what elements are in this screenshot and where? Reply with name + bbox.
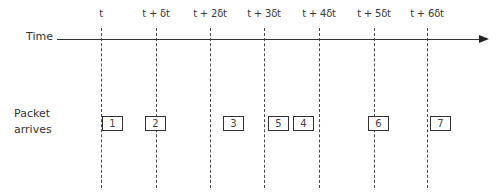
row-label-line1: Packet [14,106,52,122]
dashed-line-t3 [264,28,265,188]
arrow-head-icon [479,35,489,43]
packet-box-2: 2 [145,116,166,131]
tick-label-t0: t [99,8,103,19]
packet-arrival-timeline-diagram: t t + δt t + 2δt t + 3δt t + 4δt t + 5δt… [0,0,499,193]
tick-label-t2: t + 2δt [193,8,227,19]
packet-box-3: 3 [223,116,244,131]
time-axis-label: Time [26,30,53,43]
dashed-line-t6 [427,28,428,188]
packet-box-7: 7 [430,116,451,131]
dashed-line-t0 [101,28,102,188]
packet-arrives-label: Packet arrives [14,106,52,138]
packet-box-6: 6 [368,116,389,131]
time-axis-line [57,39,481,40]
packet-box-5: 5 [268,116,289,131]
tick-label-t4: t + 4δt [302,8,336,19]
tick-label-t6: t + 6δt [410,8,444,19]
tick-label-t3: t + 3δt [247,8,281,19]
row-label-line2: arrives [14,122,52,138]
tick-label-t1: t + δt [142,8,170,19]
tick-label-t5: t + 5δt [357,8,391,19]
dashed-line-t2 [210,28,211,188]
dashed-line-t1 [156,28,157,188]
dashed-line-t5 [374,28,375,188]
dashed-line-t4 [319,28,320,188]
packet-box-1: 1 [102,116,123,131]
packet-box-4: 4 [293,116,314,131]
